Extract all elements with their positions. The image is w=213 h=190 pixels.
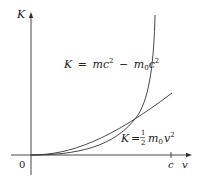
svg-text:m0v2: m0v2 — [148, 131, 175, 146]
y-axis-label: K — [16, 8, 26, 21]
origin-label: 0 — [19, 159, 25, 170]
c-tick-label: c — [168, 159, 174, 170]
svg-text:2: 2 — [141, 139, 145, 147]
svg-text:1: 1 — [141, 129, 145, 137]
x-axis-label: v — [182, 159, 188, 170]
relativistic-label: K = mc2 − m0c2 — [63, 53, 159, 72]
kinetic-energy-diagram: K v 0 c K = mc2 − m0c2 K = 1 2 m0v2 — [0, 0, 213, 190]
svg-text:=: = — [131, 132, 140, 145]
classical-curve — [31, 93, 172, 155]
classical-label: K = 1 2 m0v2 — [120, 129, 175, 147]
y-axis-arrow-icon — [29, 12, 33, 18]
x-axis-arrow-icon — [186, 153, 192, 157]
svg-text:K = mc2 −: K = mc2 − m0c2 — [63, 53, 159, 72]
svg-text:K: K — [120, 132, 130, 145]
